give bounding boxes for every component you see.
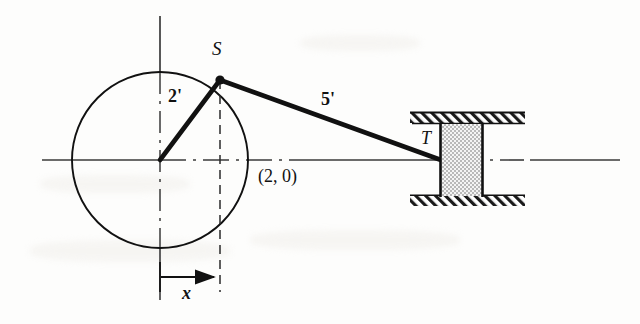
guide-top [410, 113, 525, 124]
label-rod-length: 5' [321, 89, 335, 110]
label-crank-length: 2' [168, 86, 182, 107]
crank-pin-joint [215, 75, 224, 84]
slider-block [440, 123, 483, 197]
label-crank-pin: S [212, 38, 222, 60]
label-slider: T [421, 128, 431, 149]
guide-bottom [410, 196, 525, 207]
mechanism-diagram [0, 0, 640, 324]
label-axis-point: (2, 0) [258, 166, 297, 187]
label-displacement: x [182, 283, 191, 304]
figure-canvas: S T 2' 5' (2, 0) x [0, 0, 640, 324]
